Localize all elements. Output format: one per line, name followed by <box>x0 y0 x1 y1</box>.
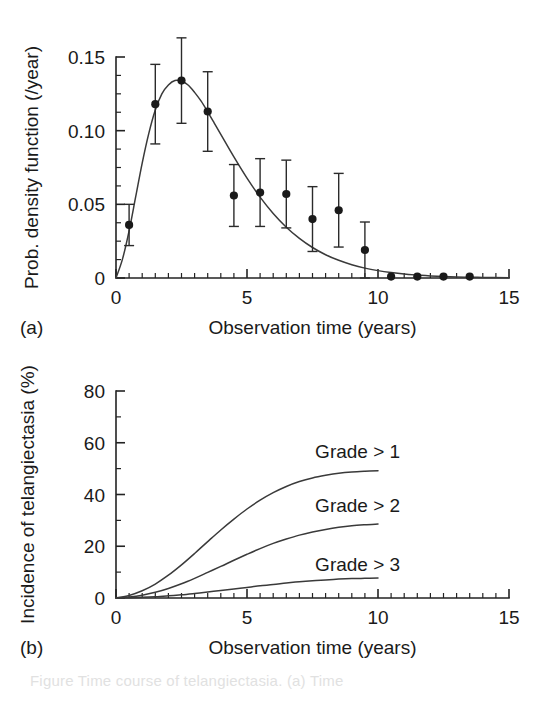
panel-b-x-tick-label: 15 <box>498 607 519 628</box>
panel-b-series-label: Grade > 1 <box>315 441 400 462</box>
panel-a-data-point <box>335 206 343 214</box>
panel-a-x-axis-title: Observation time (years) <box>208 317 416 338</box>
panel-b-y-axis-title: Incidence of telangiectasia (%) <box>17 365 38 624</box>
panel-a-label: (a) <box>20 317 43 338</box>
panel-b-series-label: Grade > 3 <box>315 554 400 575</box>
panel-a-data-point <box>151 100 159 108</box>
panel-a-data-point <box>387 272 395 280</box>
panel-a-chart: 05101500.050.100.15Observation time (yea… <box>0 0 547 350</box>
panel-a-y-tick-label: 0.10 <box>68 121 105 142</box>
panel-a-data-point <box>177 76 185 84</box>
panel-a-y-tick-label: 0.15 <box>68 47 105 68</box>
panel-a-data-point <box>361 246 369 254</box>
panel-a-y-tick-label: 0 <box>94 268 105 289</box>
panel-a-data-point <box>308 215 316 223</box>
panel-b-x-tick-label: 5 <box>242 607 253 628</box>
panel-b-y-tick-label: 80 <box>84 381 105 402</box>
figure-container: 05101500.050.100.15Observation time (yea… <box>0 0 547 708</box>
panel-b-y-tick-label: 60 <box>84 433 105 454</box>
panel-b-chart: 051015020406080Grade > 1Grade > 2Grade >… <box>0 350 547 670</box>
panel-b-axes <box>116 391 509 598</box>
figure-caption-partial: Figure Time course of telangiectasia. (a… <box>0 672 547 708</box>
panel-b-label: (b) <box>20 637 43 658</box>
panel-a-x-tick-label: 5 <box>242 287 253 308</box>
panel-a-data-point <box>204 107 212 115</box>
panel-a-data-point <box>439 272 447 280</box>
panel-a-y-tick-label: 0.05 <box>68 194 105 215</box>
panel-a-x-tick-label: 15 <box>498 287 519 308</box>
panel-a-data-point <box>256 188 264 196</box>
panel-b-series-label: Grade > 2 <box>315 495 400 516</box>
panel-a-x-tick-label: 0 <box>111 287 122 308</box>
panel-a-data-point <box>125 221 133 229</box>
panel-b-y-tick-label: 20 <box>84 536 105 557</box>
panel-b-y-tick-label: 40 <box>84 485 105 506</box>
panel-b-y-tick-label: 0 <box>94 588 105 609</box>
panel-a-y-axis-title: Prob. density function (/year) <box>21 46 42 289</box>
panel-a-data-point <box>413 272 421 280</box>
panel-a-x-tick-label: 10 <box>367 287 388 308</box>
panel-a-data-point <box>282 190 290 198</box>
panel-a-data-point <box>466 272 474 280</box>
panel-b-x-tick-label: 10 <box>367 607 388 628</box>
panel-b-x-tick-label: 0 <box>111 607 122 628</box>
panel-b-x-axis-title: Observation time (years) <box>208 637 416 658</box>
panel-a-data-point <box>230 191 238 199</box>
